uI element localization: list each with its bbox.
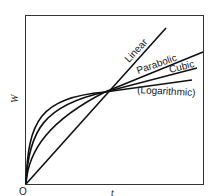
origin-label: O xyxy=(19,186,27,196)
y-axis-label: W xyxy=(9,93,20,103)
x-axis-label: t xyxy=(111,187,114,196)
plot-frame xyxy=(26,16,204,185)
linear-curve xyxy=(26,28,166,184)
growth-law-chart: Linear Parabolic Cubic (Logarithmic) W t… xyxy=(0,0,216,196)
logarithmic-label: (Logarithmic) xyxy=(137,84,196,98)
